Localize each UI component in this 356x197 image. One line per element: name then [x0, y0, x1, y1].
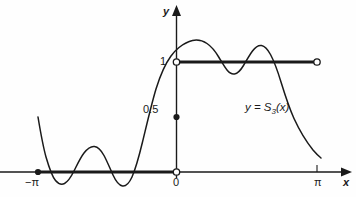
- x-axis-label: x: [343, 177, 349, 188]
- fourier-series-figure: −π 0 π 0.5 1 y x y = S3(x): [0, 0, 356, 197]
- curve-label-suffix: (x): [276, 101, 289, 113]
- y-tick-label-half: 0.5: [143, 104, 158, 115]
- marker-open-circle-origin: [173, 169, 179, 175]
- curve-equation-label: y = S3(x): [245, 102, 289, 116]
- marker-open-circle-one-right: [314, 59, 320, 65]
- x-tick-label-zero: 0: [173, 177, 179, 188]
- curve-label-prefix: y = S: [245, 101, 272, 113]
- marker-filled-dot-neg-pi: [35, 169, 41, 175]
- y-axis-arrowhead: [172, 5, 181, 16]
- x-tick-label-pi: π: [314, 177, 322, 188]
- y-axis: [172, 5, 181, 178]
- y-tick-label-one: 1: [160, 56, 166, 67]
- marker-filled-dot-half: [173, 114, 179, 120]
- plot-canvas: [0, 0, 356, 197]
- y-axis-label: y: [163, 6, 169, 17]
- x-tick-label-neg-pi: −π: [25, 177, 39, 188]
- marker-open-circle-one-left: [173, 59, 179, 65]
